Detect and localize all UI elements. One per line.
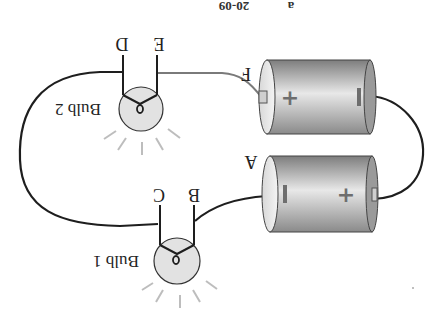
svg-text:A: A [245,152,258,172]
battery-1: + A [245,152,379,232]
wire-a-to-b [195,196,267,221]
svg-text:E: E [154,34,165,54]
battery-1-terminal-nub [372,188,377,201]
battery-2-minus-sign [357,88,361,106]
bulb-1-label: Bulb 1 [93,252,139,271]
header-text: 20-09 a [218,0,294,14]
battery-2: + F [241,60,376,134]
battery-1-plus-sign: + [337,182,355,207]
bulb-2-label: Bulb 2 [55,100,101,119]
label-b: B [188,185,200,205]
bulb-1-rays [142,281,217,308]
label-a: A [245,152,258,172]
bulb-2-rays [104,129,180,155]
svg-text:a: a [287,0,294,14]
battery-2-terminal-nub [259,91,267,103]
speck [412,287,414,289]
svg-text:B: B [188,185,200,205]
label-f: F [241,64,251,84]
svg-text:C: C [153,185,165,205]
battery-2-plus-sign: + [281,85,299,110]
bulb-2: D E Bulb 2 [55,34,180,155]
battery-1-minus-sign [283,185,287,203]
label-c: C [153,185,165,205]
bulb-1: C B Bulb 1 [93,185,217,308]
circuit-diagram: 20-09 a + F + A [0,0,435,317]
svg-text:F: F [241,64,251,84]
label-d: D [116,34,129,54]
svg-text:D: D [116,34,129,54]
svg-text:Bulb 2: Bulb 2 [55,100,101,119]
svg-text:Bulb 1: Bulb 1 [93,252,139,271]
label-e: E [154,34,165,54]
svg-text:20-09: 20-09 [218,0,249,14]
